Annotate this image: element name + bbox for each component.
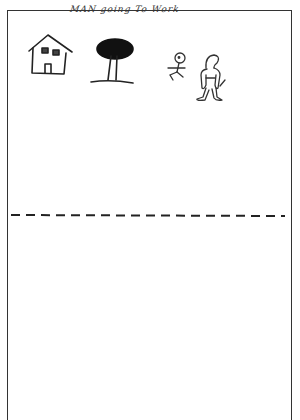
stick-figure-icon (168, 53, 185, 80)
man-icon (197, 55, 225, 100)
house-icon (29, 35, 72, 74)
dashed-divider (11, 215, 285, 216)
tree-icon (91, 39, 133, 83)
